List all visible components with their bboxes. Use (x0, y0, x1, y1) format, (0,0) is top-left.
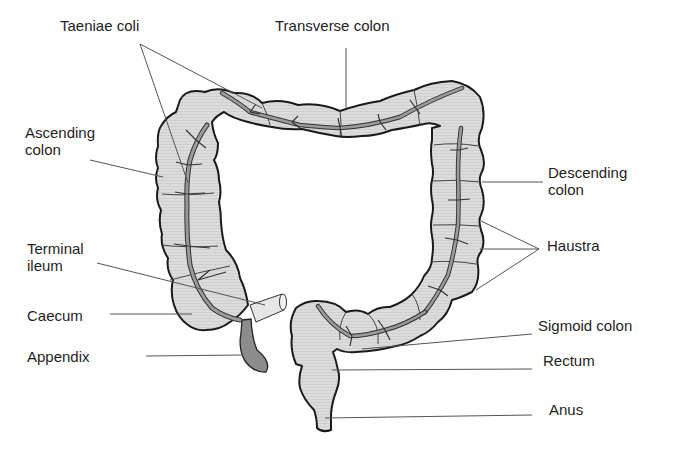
label-haustra: Haustra (547, 237, 600, 254)
label-anus: Anus (549, 401, 583, 418)
label-transverse-colon: Transverse colon (275, 17, 390, 34)
leader-ascending-colon (90, 160, 163, 177)
leader-anus (325, 415, 532, 418)
label-ascending-colon: Ascending colon (25, 124, 95, 158)
leader-rectum (332, 369, 532, 370)
appendix-shape (240, 319, 268, 372)
leader-haustra-3 (476, 249, 539, 290)
terminal-ileum-shape (250, 294, 287, 322)
label-caecum: Caecum (27, 307, 83, 324)
label-appendix: Appendix (27, 348, 90, 365)
label-taeniae-coli: Taeniae coli (60, 17, 139, 34)
label-terminal-ileum: Terminal ileum (27, 240, 84, 274)
colon-shape (156, 81, 484, 431)
label-sigmoid-colon: Sigmoid colon (538, 317, 632, 334)
colon-illustration (0, 0, 674, 452)
label-descending-colon: Descending colon (548, 164, 627, 198)
colon-diagram: Taeniae coli Transverse colon Ascending … (0, 0, 674, 452)
leader-appendix (146, 355, 243, 356)
leader-haustra-1 (481, 221, 539, 249)
label-rectum: Rectum (543, 352, 595, 369)
